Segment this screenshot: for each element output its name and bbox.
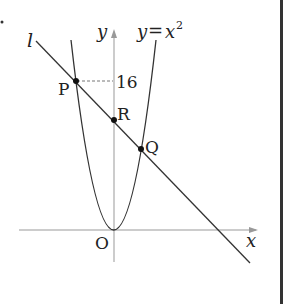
svg-text:2: 2 bbox=[176, 19, 183, 32]
y-axis-label: y bbox=[96, 21, 108, 42]
x-axis bbox=[19, 227, 258, 233]
svg-text:x: x bbox=[165, 21, 175, 42]
y-tick-16: 16 bbox=[116, 72, 138, 92]
point-P bbox=[73, 78, 79, 84]
svg-text:=: = bbox=[148, 20, 163, 41]
label-P: P bbox=[58, 79, 69, 99]
label-Q: Q bbox=[145, 137, 159, 157]
stray-mark bbox=[1, 21, 4, 24]
curve-label: y = x 2 bbox=[136, 19, 183, 42]
line-l-label: l bbox=[27, 29, 33, 51]
x-axis-label: x bbox=[246, 230, 256, 251]
page-divider bbox=[280, 0, 283, 304]
label-R: R bbox=[117, 104, 131, 124]
point-Q bbox=[138, 146, 144, 152]
svg-text:y: y bbox=[136, 21, 148, 42]
parabola-line-diagram: l y y = x 2 16 P R Q O x bbox=[0, 0, 287, 304]
origin-label: O bbox=[95, 233, 109, 253]
y-axis bbox=[111, 29, 117, 262]
